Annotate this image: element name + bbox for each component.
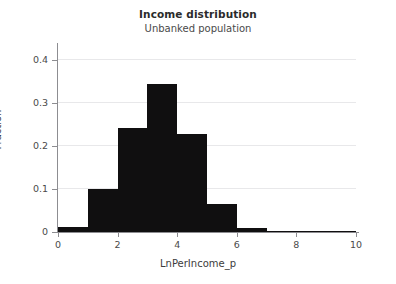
y-tick-label: 0.2 (0, 140, 48, 151)
x-tick-mark (237, 233, 238, 237)
y-tick-mark (52, 60, 57, 61)
y-tick-mark (52, 189, 57, 190)
y-tick-label: 0.4 (0, 54, 48, 65)
y-tick-mark (52, 232, 57, 233)
x-tick-label: 10 (350, 239, 362, 250)
x-tick-mark (177, 233, 178, 237)
chart-subtitle: Unbanked population (0, 22, 396, 35)
y-tick-label: 0.3 (0, 97, 48, 108)
histogram-bar (88, 189, 118, 232)
histogram-bar (147, 84, 177, 232)
y-tick-label: 0 (0, 226, 48, 237)
x-tick-label: 0 (55, 239, 61, 250)
x-tick-mark (356, 233, 357, 237)
y-tick-mark (52, 146, 57, 147)
x-tick-label: 8 (293, 239, 299, 250)
y-tick-label: 0.1 (0, 183, 48, 194)
y-tick-mark (52, 103, 57, 104)
x-tick-label: 4 (174, 239, 180, 250)
histogram-chart: Income distribution Unbanked population … (0, 0, 396, 284)
x-tick-label: 6 (234, 239, 240, 250)
x-axis-title: LnPerIncome_p (0, 258, 396, 269)
chart-title: Income distribution (0, 8, 396, 21)
y-axis-line (57, 43, 58, 233)
x-axis-line (54, 232, 359, 233)
x-tick-mark (118, 233, 119, 237)
y-axis-title: Fraction (0, 110, 3, 150)
gridline (58, 59, 356, 60)
title-block: Income distribution Unbanked population (0, 8, 396, 35)
gridline (58, 145, 356, 146)
plot-area (58, 47, 356, 232)
histogram-bar (207, 204, 237, 232)
histogram-bar (118, 128, 148, 232)
x-tick-mark (58, 233, 59, 237)
x-tick-mark (296, 233, 297, 237)
histogram-bar (177, 134, 207, 232)
x-tick-label: 2 (115, 239, 121, 250)
gridline (58, 102, 356, 103)
